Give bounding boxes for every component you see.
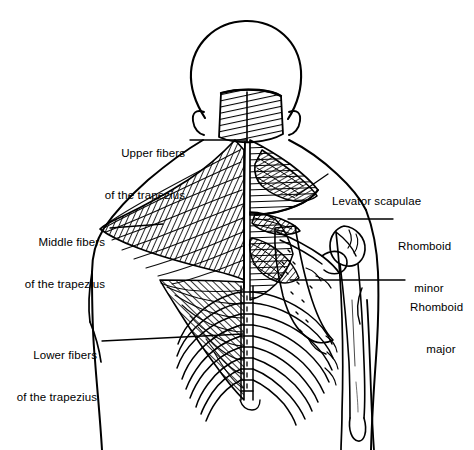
label-middle-fibers-line2: of the trapezius [0,277,105,291]
label-upper-fibers-line2: of the trapezius [0,188,185,202]
label-middle-fibers-line1: Middle fibers [0,235,105,249]
lower-trapezius-fibers [160,280,244,400]
label-rhomboid-minor-line1: Rhomboid [398,239,474,253]
label-upper-fibers-line1: Upper fibers [0,146,185,160]
label-lower-fibers-line1: Lower fibers [0,348,97,362]
label-lower-fibers: Lower fibers of the trapezius [0,320,97,432]
humerus-bone [330,226,366,441]
upper-trapezius-fibers [219,90,283,143]
label-rhomboid-major: Rhomboid major [410,272,474,384]
label-middle-fibers: Middle fibers of the trapezius [0,207,105,319]
label-levator-scapulae-line1: Levator scapulae [332,194,472,208]
anatomy-figure: Upper fibers of the trapezius Middle fib… [0,0,474,450]
label-rhomboid-major-line2: major [410,342,472,356]
label-lower-fibers-line2: of the trapezius [0,390,97,404]
label-rhomboid-major-line1: Rhomboid [410,300,474,314]
